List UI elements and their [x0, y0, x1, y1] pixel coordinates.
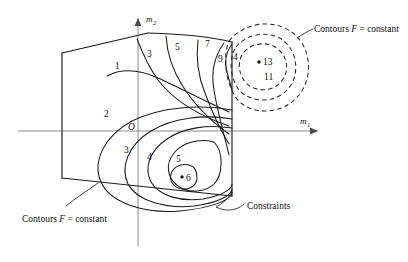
upper-dashed-contour-family — [226, 24, 309, 111]
y-axis-label: m 2 — [146, 14, 157, 26]
x-axis-label-subscript: 1 — [307, 121, 310, 128]
dashed-contour-outer — [226, 24, 309, 111]
annotation-leader-upper — [297, 29, 313, 38]
contour-closed-2 — [98, 107, 232, 211]
contour-label-lower-3: 3 — [124, 145, 129, 155]
annotation-upper-prefix: Contours — [314, 24, 351, 34]
x-axis-arrowhead — [310, 128, 318, 135]
contour-labels-group: 1 3 5 7 9 4 13 11 2 O 3 4 5 6 — [104, 39, 273, 183]
contour-label-upper-13: 13 — [263, 57, 273, 67]
annotation-leader-lower — [66, 183, 98, 206]
annotation-leader-constraints — [216, 193, 244, 210]
annotation-lower-suffix: = constant — [65, 214, 107, 224]
contour-label-upper-4: 4 — [233, 52, 238, 62]
annotation-contours-upper: Contours F = constant — [297, 24, 399, 38]
y-axis-label-name: m — [146, 14, 153, 24]
contour-closed-6 — [171, 164, 197, 189]
contour-label-lower-6: 6 — [186, 173, 191, 183]
annotation-lower-prefix: Contours — [22, 214, 59, 224]
contour-curve-7 — [197, 40, 229, 144]
contour-label-upper-7: 7 — [205, 39, 210, 49]
contour-label-upper-3: 3 — [147, 49, 152, 59]
center-dot-13 — [257, 60, 260, 63]
contour-label-upper-11: 11 — [264, 72, 273, 82]
lower-contour-family — [98, 107, 232, 211]
annotation-contours-upper-text: Contours F = constant — [314, 24, 399, 34]
x-axis-label: m 1 — [300, 116, 310, 128]
constraint-edge-bottom — [62, 178, 232, 196]
annotation-contours-lower: Contours F = constant — [22, 183, 107, 224]
constraint-edge-top-left — [62, 33, 148, 53]
contour-label-upper-1: 1 — [115, 61, 120, 71]
y-axis-arrowhead — [135, 18, 142, 26]
y-axis-label-subscript: 2 — [153, 19, 157, 26]
annotation-constraints-text: Constraints — [247, 201, 291, 211]
contour-label-lower-5: 5 — [176, 154, 181, 164]
optimization-contour-diagram: m 1 m 2 1 3 5 — [0, 0, 408, 262]
x-axis-label-name: m — [300, 116, 307, 126]
annotation-upper-suffix: = constant — [357, 24, 399, 34]
contour-label-upper-5: 5 — [175, 42, 180, 52]
contour-closed-5 — [168, 141, 221, 191]
center-dot-6 — [180, 175, 183, 178]
contour-label-lower-4: 4 — [147, 152, 152, 162]
constraint-edge-top-right — [148, 33, 232, 42]
contour-label-lower-2: 2 — [104, 109, 109, 119]
origin-label: O — [128, 122, 135, 132]
annotation-contours-lower-text: Contours F = constant — [22, 214, 107, 224]
contour-label-upper-9: 9 — [218, 54, 223, 64]
